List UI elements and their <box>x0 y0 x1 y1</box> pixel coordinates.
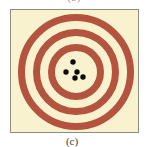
target-figure <box>10 9 139 133</box>
figure-caption: (c) <box>52 135 92 147</box>
shot-mark-1 <box>70 59 75 64</box>
previous-caption-fragment: (b) <box>64 0 84 2</box>
shot-mark-4 <box>72 75 77 80</box>
shot-mark-5 <box>80 74 85 79</box>
shot-mark-3 <box>74 69 79 74</box>
shot-mark-2 <box>63 69 68 74</box>
target-diagram <box>11 10 139 133</box>
